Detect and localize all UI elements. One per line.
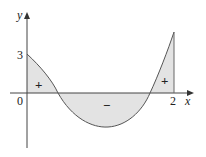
right-positive-region-label: + — [161, 73, 168, 88]
x-axis-label: x — [184, 94, 191, 108]
left-positive-region-label: + — [35, 77, 42, 92]
y-axis-arrow-icon — [24, 12, 30, 19]
shaded-area — [27, 32, 174, 127]
middle-negative-region-label: − — [103, 98, 110, 113]
x-tick-label: 2 — [170, 94, 176, 108]
origin-label: 0 — [17, 94, 23, 108]
y-axis-label: y — [16, 8, 23, 22]
signed-area-diagram: y 3 0 2 x + − + — [0, 0, 206, 157]
y-tick-label: 3 — [17, 48, 23, 62]
